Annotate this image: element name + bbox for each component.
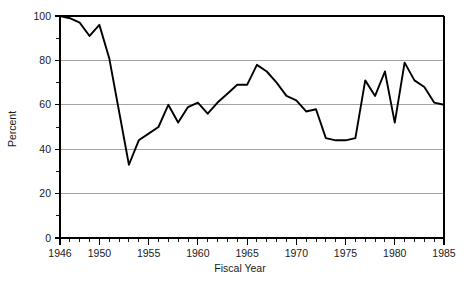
x-tick-label: 1985	[432, 247, 456, 259]
axis-lines	[60, 16, 444, 238]
line-chart: 020406080100 194619501955196019651970197…	[0, 0, 468, 283]
x-tick-label: 1950	[88, 247, 112, 259]
chart-container: 020406080100 194619501955196019651970197…	[0, 0, 468, 283]
y-axis-tick-labels: 020406080100	[33, 10, 51, 244]
x-tick-label: 1960	[186, 247, 210, 259]
data-series-line	[60, 16, 444, 165]
x-tick-label: 1946	[48, 247, 72, 259]
x-axis-title: Fiscal Year	[214, 262, 266, 274]
y-tick-label: 40	[39, 143, 51, 155]
x-tick-label: 1980	[383, 247, 407, 259]
y-tick-label: 0	[45, 232, 51, 244]
x-tick-label: 1975	[334, 247, 358, 259]
x-tick-label: 1965	[235, 247, 259, 259]
y-axis-ticks	[55, 16, 60, 238]
x-axis-tick-labels: 194619501955196019651970197519801985	[48, 247, 456, 259]
y-tick-label: 100	[33, 10, 51, 22]
x-tick-label: 1955	[137, 247, 161, 259]
y-tick-label: 60	[39, 98, 51, 110]
y-axis-title: Percent	[6, 111, 18, 147]
y-tick-label: 80	[39, 54, 51, 66]
x-axis-ticks	[60, 238, 444, 245]
x-tick-label: 1970	[285, 247, 309, 259]
y-tick-label: 20	[39, 187, 51, 199]
